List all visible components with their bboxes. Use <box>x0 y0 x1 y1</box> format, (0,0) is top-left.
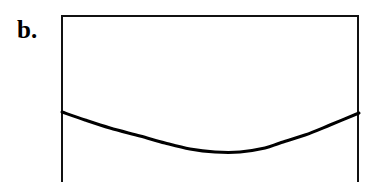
panel-label: b. <box>17 17 37 42</box>
figure-panel: b. <box>0 0 372 182</box>
plot-frame <box>61 15 359 182</box>
